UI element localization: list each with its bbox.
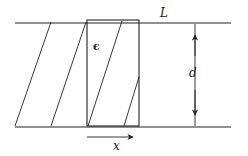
dielectric-slab [87,20,139,126]
hatching [15,21,139,126]
label-x: x [113,139,120,153]
label-epsilon: ϵ [93,40,100,53]
label-L: L [159,6,168,20]
capacitor-diagram: L d ϵ x [0,0,248,156]
label-d: d [189,66,197,80]
